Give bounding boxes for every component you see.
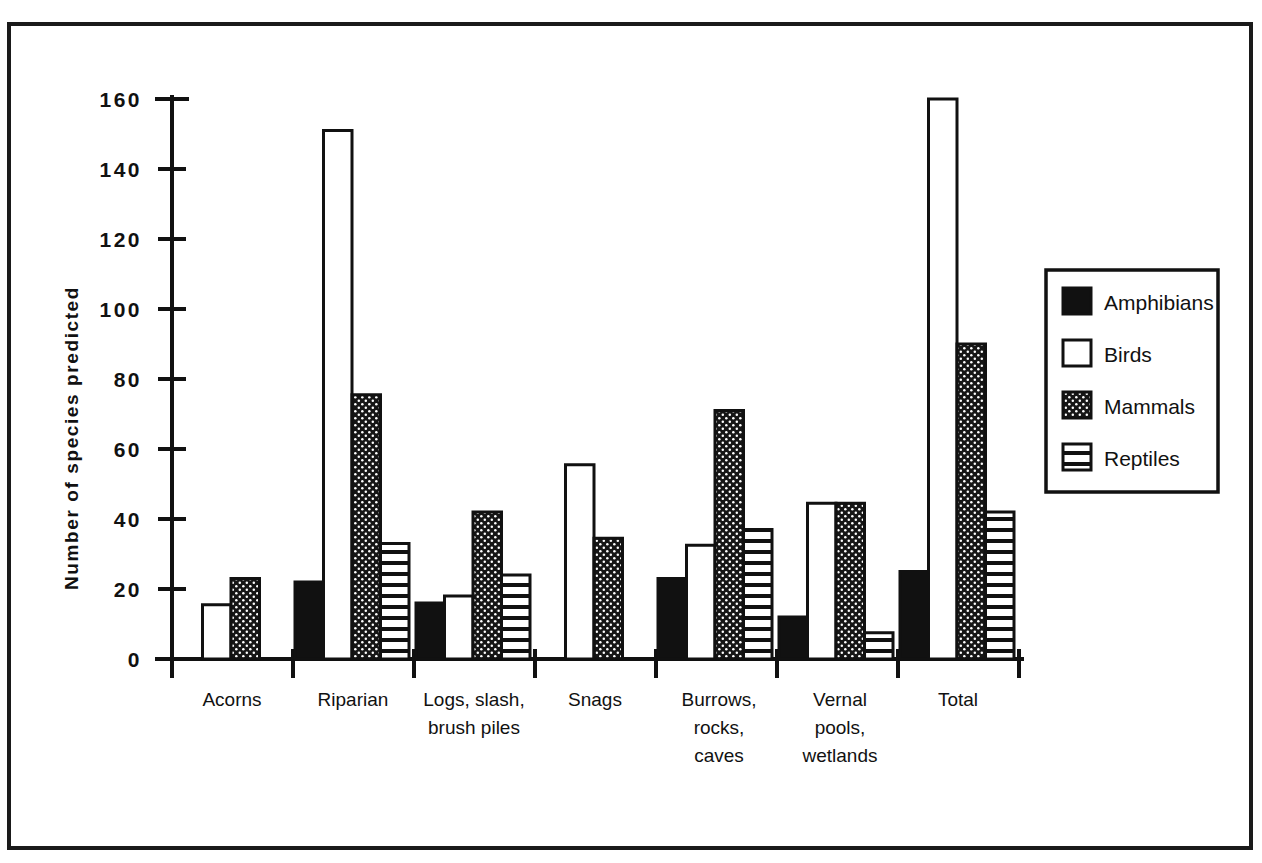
bar [502,575,531,659]
cat-label-vernal-line1: Vernal [813,689,867,710]
cat-label-burrows-line3: caves [694,745,744,766]
bar [566,465,595,659]
legend-swatch-birds [1063,340,1091,366]
legend-label-reptiles: Reptiles [1104,447,1180,470]
cat-label-logs-line2: brush piles [428,717,520,738]
bar [779,617,808,659]
bar [324,131,353,660]
bar [986,512,1015,659]
legend-label-mammals: Mammals [1104,395,1195,418]
bar [445,596,474,659]
bar [658,579,687,660]
cat-label-snags: Snags [568,689,622,710]
figure-root: 160 140 120 100 80 60 40 20 0 Number of … [0,0,1262,863]
y-tick-label-160: 160 [99,88,142,111]
y-axis-title: Number of species predicted [61,286,82,590]
bar [900,572,929,660]
cat-label-total: Total [938,689,978,710]
y-tick-label-20: 20 [114,578,142,601]
cat-label-burrows-line1: Burrows, [682,689,757,710]
cat-label-burrows-line2: rocks, [694,717,745,738]
y-tick-label-120: 120 [99,228,142,251]
bar [594,538,623,659]
bar [744,530,773,660]
y-tick-label-60: 60 [114,438,142,461]
x-category-labels: Acorns Riparian Logs, slash, brush piles… [202,689,978,766]
y-tick-labels: 160 140 120 100 80 60 40 20 0 [99,88,142,671]
y-tick-label-40: 40 [114,508,142,531]
y-tick-label-140: 140 [99,158,142,181]
bar [231,579,260,660]
bar [381,544,410,660]
legend: Amphibians Birds Mammals Reptiles [1046,270,1218,492]
bar [295,582,324,659]
bar [929,99,958,659]
bar [957,344,986,659]
bar [473,512,502,659]
bar [715,411,744,660]
cat-label-vernal-line2: pools, [815,717,866,738]
legend-swatch-mammals [1063,392,1091,418]
cat-label-acorns: Acorns [202,689,261,710]
y-axis-group: 160 140 120 100 80 60 40 20 0 Number of … [61,88,189,671]
bar [416,603,445,659]
bar-chart: 160 140 120 100 80 60 40 20 0 Number of … [0,0,1262,863]
legend-swatch-amphibians [1063,288,1091,314]
y-tick-label-100: 100 [99,298,142,321]
legend-label-birds: Birds [1104,343,1152,366]
bar [687,545,716,659]
cat-label-riparian: Riparian [318,689,389,710]
bars-layer [203,99,1015,659]
cat-label-logs-line1: Logs, slash, [423,689,524,710]
bar [203,605,232,659]
bar [352,395,381,659]
legend-label-amphibians: Amphibians [1104,291,1214,314]
bar [808,503,837,659]
y-tick-label-0: 0 [128,648,142,671]
bar [865,633,894,659]
y-tick-label-80: 80 [114,368,142,391]
bar [836,503,865,659]
cat-label-vernal-line3: wetlands [802,745,878,766]
legend-swatch-reptiles [1063,444,1091,470]
